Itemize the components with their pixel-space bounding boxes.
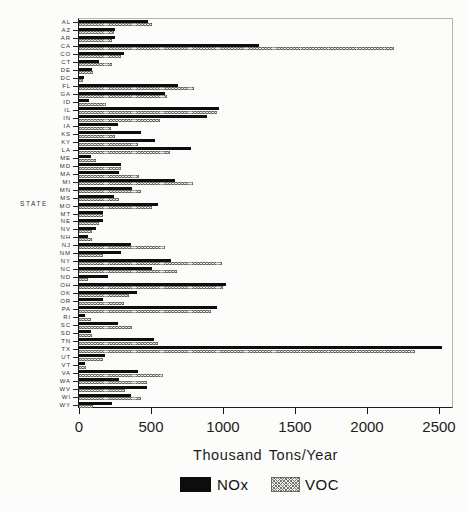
voc-bar-OR [79,302,124,305]
voc-bar-WI [79,397,141,400]
state-label-IN: IN [37,115,71,122]
voc-bar-MA [79,175,139,178]
state-label-NV: NV [37,226,71,233]
state-label-TX: TX [37,346,71,353]
state-label-GA: GA [37,91,71,98]
state-label-SD: SD [37,330,71,337]
voc-bar-LA [79,151,170,154]
x-tick-label-0: 0 [49,418,109,435]
voc-bar-NJ [79,246,165,249]
voc-bar-GA [79,95,167,98]
voc-bar-DC [79,79,83,82]
x-axis-title: Thousand Tons/Year [78,447,453,463]
state-label-ID: ID [37,99,71,106]
voc-bar-KY [79,143,138,146]
voc-bar-PA [79,310,211,313]
x-tick-label-1500: 1500 [265,418,325,435]
state-label-OR: OR [37,298,71,305]
voc-bar-SC [79,326,132,329]
state-label-NE: NE [37,218,71,225]
state-label-NY: NY [37,258,71,265]
x-tick-label-1000: 1000 [193,418,253,435]
state-label-WV: WV [37,386,71,393]
state-label-PA: PA [37,306,71,313]
state-label-TN: TN [37,338,71,345]
voc-bar-WV [79,389,125,392]
voc-bar-WA [79,381,147,384]
voc-bar-NH [79,238,92,241]
state-label-AZ: AZ [37,27,71,34]
voc-bar-NY [79,262,222,265]
state-label-MI: MI [37,179,71,186]
voc-bar-NM [79,254,103,257]
state-label-SC: SC [37,322,71,329]
voc-bar-MO [79,206,152,209]
legend-swatch-voc [271,477,300,492]
voc-bar-MI [79,182,193,185]
state-label-OK: OK [37,290,71,297]
voc-bar-VT [79,366,86,369]
state-label-KS: KS [37,131,71,138]
voc-bar-IA [79,127,111,130]
voc-bar-NE [79,222,99,225]
voc-bar-CA [79,47,394,50]
state-label-DC: DC [37,75,71,82]
voc-bar-KS [79,135,115,138]
voc-bar-NC [79,270,177,273]
voc-bar-TN [79,342,158,345]
state-label-MT: MT [37,211,71,218]
voc-bar-UT [79,358,103,361]
voc-bar-AR [79,39,112,42]
state-label-WI: WI [37,394,71,401]
state-label-CO: CO [37,51,71,58]
x-axis-tick-1000 [223,408,224,414]
x-axis-tick-1500 [295,408,296,414]
voc-bar-CO [79,55,121,58]
state-label-WY: WY [37,402,71,409]
state-label-WA: WA [37,378,71,385]
legend-label-voc: VOC [305,477,339,492]
voc-bar-CT [79,63,112,66]
state-label-CT: CT [37,59,71,66]
state-label-FL: FL [37,83,71,90]
voc-bar-OK [79,294,129,297]
state-label-CA: CA [37,43,71,50]
state-label-MA: MA [37,171,71,178]
x-tick-label-2500: 2500 [409,418,468,435]
legend-swatch-nox [180,477,211,492]
voc-bar-VA [79,374,163,377]
state-label-AR: AR [37,35,71,42]
voc-bar-FL [79,87,194,90]
voc-bar-OH [79,286,223,289]
voc-bar-ND [79,278,88,281]
state-label-UT: UT [37,354,71,361]
state-label-MN: MN [37,187,71,194]
voc-bar-AL [79,23,152,26]
state-label-MD: MD [37,163,71,170]
voc-bar-IL [79,111,217,114]
y-axis-title: STATE [20,200,48,207]
x-axis-tick-0 [79,408,80,414]
voc-bar-RI [79,318,91,321]
voc-bar-ME [79,159,96,162]
state-label-IA: IA [37,123,71,130]
state-label-ND: ND [37,274,71,281]
voc-bar-SD [79,334,92,337]
state-label-VA: VA [37,370,71,377]
voc-bar-MN [79,190,141,193]
state-label-KY: KY [37,139,71,146]
voc-bar-MS [79,198,119,201]
x-axis-tick-500 [151,408,152,414]
voc-bar-AZ [79,31,114,34]
state-label-AL: AL [37,19,71,26]
state-label-NJ: NJ [37,242,71,249]
state-label-ME: ME [37,155,71,162]
voc-bar-IN [79,119,160,122]
state-label-NM: NM [37,250,71,257]
voc-bar-MT [79,214,103,217]
x-tick-label-2000: 2000 [337,418,397,435]
x-axis-tick-2000 [367,408,368,414]
state-label-LA: LA [37,147,71,154]
legend-label-nox: NOx [217,477,249,492]
bar-chart-figure: ALAZARCACOCTDEDCFLGAIDILINIAKSKYLAMEMDMA… [0,0,468,511]
